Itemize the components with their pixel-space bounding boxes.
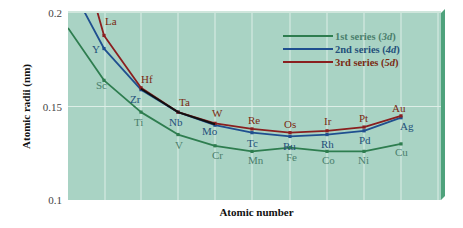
element-label: Ru: [283, 140, 296, 152]
element-label: Ta: [179, 96, 190, 108]
element-label: Au: [392, 102, 406, 114]
element-label: Ir: [324, 115, 332, 127]
element-label: Mo: [202, 125, 218, 137]
data-point: [362, 150, 365, 153]
element-label: Os: [284, 118, 296, 130]
element-label: La: [105, 15, 117, 27]
data-point: [176, 133, 179, 136]
element-label: Sc: [96, 79, 107, 91]
element-label: Re: [248, 114, 260, 126]
data-point: [325, 133, 328, 136]
element-label: Ag: [400, 120, 414, 132]
data-point: [250, 127, 253, 130]
element-label: Ti: [134, 116, 143, 128]
data-point: [102, 34, 105, 37]
element-label: Co: [322, 154, 335, 166]
element-label: Cu: [395, 146, 408, 158]
data-point: [362, 125, 365, 128]
x-axis-title: Atomic number: [219, 206, 293, 218]
element-label: V: [175, 139, 183, 151]
element-label: Fe: [286, 151, 297, 163]
element-label: Cr: [212, 149, 223, 161]
element-label: W: [212, 107, 223, 119]
element-label: Pd: [359, 134, 371, 146]
element-label: Pt: [359, 112, 368, 124]
y-tick-label: 0.1: [48, 194, 62, 206]
data-point: [139, 111, 142, 114]
data-point: [288, 135, 291, 138]
y-axis-title: Atomic radii (nm): [20, 64, 33, 149]
element-label: Rh: [321, 138, 334, 150]
element-label: Nb: [169, 116, 183, 128]
element-label: Tc: [247, 137, 258, 149]
data-point: [399, 114, 402, 117]
plot-top-edge: [68, 11, 441, 13]
data-point: [213, 144, 216, 147]
legend-entry: 1st series (3d): [335, 31, 396, 43]
element-label: Zr: [130, 93, 141, 105]
data-point: [325, 129, 328, 132]
y-tick-label: 0.15: [43, 101, 63, 113]
data-point: [325, 150, 328, 153]
element-label: Ni: [358, 154, 369, 166]
element-label: Y: [92, 43, 100, 55]
atomic-radii-chart: ScTiVCrMnFeCoNiCuYZrNbMoTcRuRhPdAgLaHfTa…: [0, 0, 463, 228]
data-point: [250, 131, 253, 134]
legend-entry: 2nd series (4d): [335, 44, 400, 56]
element-label: Mn: [248, 154, 264, 166]
plot-edge: [441, 9, 445, 200]
element-label: Hf: [141, 73, 153, 85]
y-tick-label: 0.2: [48, 7, 62, 19]
data-point: [250, 150, 253, 153]
legend-entry: 3rd series (5d): [335, 57, 399, 69]
data-point: [102, 47, 105, 50]
data-point: [288, 131, 291, 134]
data-point: [362, 129, 365, 132]
